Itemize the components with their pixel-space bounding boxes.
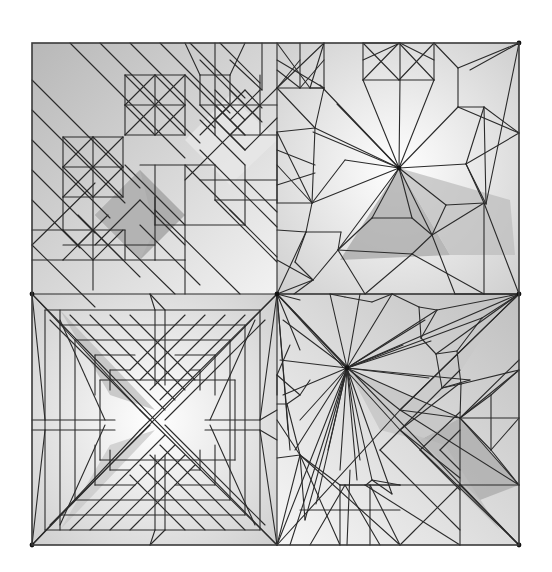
hub-vertex (345, 366, 350, 371)
hub-vertex (275, 292, 280, 297)
hub-vertex (397, 166, 402, 171)
crease-pattern-diagram (0, 0, 552, 572)
